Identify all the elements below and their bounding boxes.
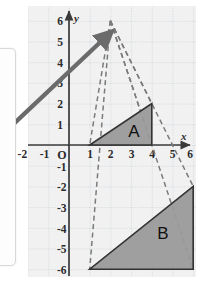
x-tick-label: -2 xyxy=(18,148,28,160)
x-axis-label: x xyxy=(180,130,187,142)
y-tick-label: 4 xyxy=(57,57,63,69)
shape-label-b: B xyxy=(157,224,168,243)
y-axis-label: y xyxy=(72,12,79,24)
y-tick-label: 2 xyxy=(57,98,63,110)
figure-root: y x -2 -1 O 1 2 3 4 5 6 6 5 4 3 2 1 xyxy=(0,0,202,281)
coordinate-grid-chart: y x -2 -1 O 1 2 3 4 5 6 6 5 4 3 2 1 xyxy=(0,0,202,281)
side-callout-panel xyxy=(0,48,16,266)
x-tick-label: 2 xyxy=(108,148,114,160)
chart-svg: y x -2 -1 O 1 2 3 4 5 6 6 5 4 3 2 1 xyxy=(0,0,202,281)
x-tick-label: -1 xyxy=(40,148,50,160)
y-tick-label: -3 xyxy=(57,202,67,214)
x-tick-label: 3 xyxy=(129,148,135,160)
y-tick-label: 1 xyxy=(57,119,63,131)
shape-label-a: A xyxy=(128,122,140,141)
x-tick-label: 5 xyxy=(170,148,176,160)
x-tick-label: 6 xyxy=(187,148,193,160)
y-tick-label: -1 xyxy=(57,161,67,173)
y-tick-label: -4 xyxy=(57,223,67,235)
x-tick-label: 1 xyxy=(87,148,93,160)
y-tick-label: -6 xyxy=(57,264,67,276)
y-tick-label: 5 xyxy=(57,36,63,48)
y-tick-label: 6 xyxy=(57,15,63,27)
y-tick-label: -2 xyxy=(57,181,67,193)
y-tick-label: -5 xyxy=(57,243,67,255)
